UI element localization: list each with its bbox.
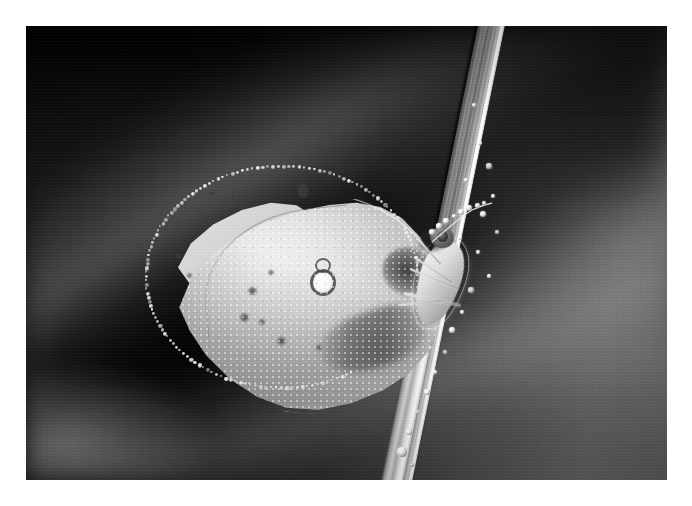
film-grain [26, 26, 667, 480]
screenshot-canvas [0, 0, 692, 506]
photograph [26, 26, 667, 480]
